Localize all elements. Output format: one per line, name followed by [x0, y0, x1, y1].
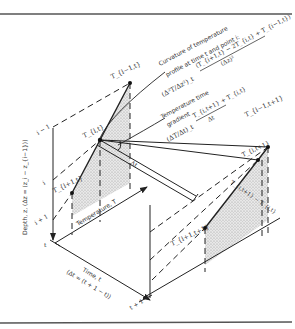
- depth-axis-label: Depth, z, (Δz = (z_i − z_{i−1})): [21, 140, 29, 235]
- label-t-ip1-t1: T_{i+1,t+1}: [169, 223, 210, 248]
- point-t-ip1-t: [70, 191, 74, 195]
- profile-area-t1: [205, 147, 268, 265]
- point-t-im1-t: [128, 81, 132, 85]
- curvature-numerator: (T_{i+1,t} − 2T_{i,t} + T_{i−1,t}): [194, 13, 292, 70]
- label-t-im1-t1: T_{i−1,t+1}: [243, 94, 284, 119]
- label-t-im1-t: T_{i−1,t}: [109, 60, 142, 81]
- point-t-i-t1: [256, 158, 260, 162]
- tick-tp1: t + 1: [128, 297, 145, 311]
- tick-t: t: [44, 241, 47, 248]
- finite-difference-diagram: T_{i−1,t} T_{i,t} T_{i+1,t} T_{i−1,t+1} …: [0, 0, 295, 329]
- bottom-border: [0, 322, 292, 323]
- tick-ip1: i + 1: [33, 213, 49, 226]
- tick-im1: i − 1: [35, 123, 51, 136]
- delta-t-label: Δt: [129, 159, 139, 169]
- profile-area-t: [72, 83, 130, 216]
- gradient-numerator: T_{i,t+1} + T_{i,t}: [191, 85, 247, 120]
- curvature-lhs: (Δ²T/Δz²)_t: [160, 75, 195, 99]
- tick-i: i: [41, 179, 46, 186]
- level-ip1-t: [53, 193, 72, 220]
- point-t-i-t: [98, 138, 102, 142]
